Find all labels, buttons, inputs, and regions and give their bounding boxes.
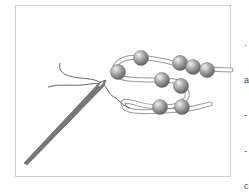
text-fragment: - bbox=[244, 110, 249, 122]
needle-icon bbox=[24, 80, 106, 165]
bead bbox=[186, 60, 201, 75]
bead bbox=[173, 56, 188, 71]
bead bbox=[134, 51, 149, 66]
cropped-text-column: · a - - c s a i e l c i bbox=[244, 16, 249, 192]
needle-beads-illustration bbox=[0, 0, 249, 192]
bead bbox=[153, 100, 168, 115]
bead bbox=[111, 65, 126, 80]
bead bbox=[200, 63, 215, 78]
bead bbox=[175, 100, 190, 115]
text-fragment: a bbox=[244, 75, 249, 87]
bead bbox=[155, 73, 170, 88]
bead bbox=[174, 79, 189, 94]
text-fragment: c bbox=[244, 181, 249, 192]
text-fragment: - bbox=[244, 146, 249, 158]
text-fragment: · bbox=[244, 40, 249, 52]
